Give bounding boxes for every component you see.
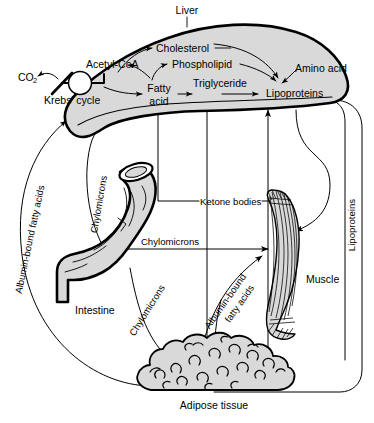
co2-subscript: 2 <box>33 76 37 85</box>
krebs-cycle-circle <box>69 72 92 95</box>
svg-text:Chylomicrons: Chylomicrons <box>127 282 167 337</box>
co2-label: CO 2 <box>18 71 37 85</box>
fatty-acid-label-line1: Fatty <box>147 82 171 94</box>
triglyceride-label: Triglyceride <box>193 77 247 89</box>
phospholipid-label: Phospholipid <box>172 58 232 70</box>
chylomicrons-diagonal-label: Chylomicrons <box>127 282 167 337</box>
svg-text:Chylomicrons: Chylomicrons <box>88 175 109 234</box>
svg-text:Albumin-bound fatty acids: Albumin-bound fatty acids <box>13 184 47 294</box>
metabolism-diagram: Liver Acetyl-CoA CO 2 Krebs' cycle Chole… <box>0 0 374 423</box>
lipoproteins-vertical-label: Lipoproteins <box>346 199 357 251</box>
lipoproteins-liver-label: Lipoproteins <box>266 87 323 99</box>
co2-label-text: CO <box>18 71 34 83</box>
ketone-bodies-label: Ketone bodies <box>200 196 262 207</box>
chylomicrons-vertical-label: Chylomicrons <box>88 175 109 234</box>
liver-to-muscle-lipoprotein-arrow <box>296 110 330 231</box>
liver-label: Liver <box>176 4 199 16</box>
muscle-organ <box>267 190 300 339</box>
muscle-label: Muscle <box>306 273 339 285</box>
lipoproteins-right-bracket <box>334 101 345 360</box>
albumin-bound-fatty-acids-left-label: Albumin-bound fatty acids <box>13 184 47 294</box>
diagram-canvas: Liver Acetyl-CoA CO 2 Krebs' cycle Chole… <box>0 0 374 423</box>
adipose-tissue-organ <box>137 333 294 390</box>
fatty-acid-label-line2: acid <box>149 95 168 107</box>
adipose-tissue-label: Adipose tissue <box>180 399 248 411</box>
co2-arrow <box>38 73 58 79</box>
intestine-label: Intestine <box>75 304 115 316</box>
chylomicrons-horizontal-label: Chylomicrons <box>141 236 199 247</box>
cholesterol-label: Cholesterol <box>156 42 209 54</box>
albumin-bound-adipose-label: Albumin-bound fatty acids <box>202 271 259 338</box>
ketone-bodies-path <box>158 112 278 201</box>
krebs-cycle-label: Krebs' cycle <box>44 94 100 106</box>
svg-text:Lipoproteins: Lipoproteins <box>346 199 357 251</box>
amino-acid-label: Amino acid <box>295 62 347 74</box>
acetyl-coa-label: Acetyl-CoA <box>86 58 139 70</box>
fatty-acid-label: Fatty acid <box>147 82 171 107</box>
